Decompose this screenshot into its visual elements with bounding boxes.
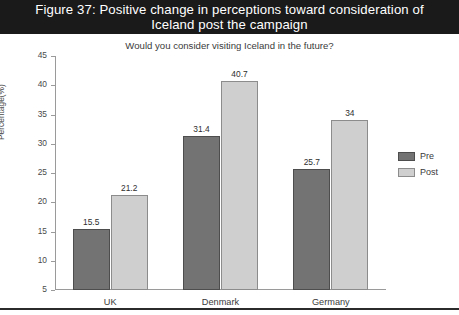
y-tick-label: 15 bbox=[38, 226, 47, 237]
footer-divider bbox=[0, 308, 459, 310]
y-axis-tick: 25 bbox=[0, 173, 55, 174]
chart-subtitle: Would you consider visiting Iceland in t… bbox=[0, 40, 459, 51]
bar-uk-pre bbox=[73, 229, 110, 290]
y-axis-tick: 45 bbox=[0, 56, 55, 57]
y-tick-label: 30 bbox=[38, 138, 47, 149]
chart-legend: PrePost bbox=[398, 148, 438, 180]
y-axis-tick: 10 bbox=[0, 261, 55, 262]
bar-germany-post bbox=[331, 120, 368, 290]
y-axis-title: Percentage(%) bbox=[0, 84, 6, 140]
y-axis-tick: 35 bbox=[0, 115, 55, 116]
x-axis-category-label: Denmark bbox=[165, 296, 275, 308]
legend-item-post[interactable]: Post bbox=[398, 164, 438, 180]
y-tick-label: 45 bbox=[38, 50, 47, 61]
legend-item-pre[interactable]: Pre bbox=[398, 148, 438, 164]
y-axis-tick: 15 bbox=[0, 232, 55, 233]
x-axis-category-label: UK bbox=[55, 296, 165, 308]
y-tick-label: 20 bbox=[38, 196, 47, 207]
legend-swatch-pre bbox=[398, 152, 415, 161]
legend-label: Post bbox=[420, 167, 438, 177]
y-tick-label: 25 bbox=[38, 167, 47, 178]
bar-denmark-pre bbox=[183, 136, 220, 290]
y-axis-tick: 30 bbox=[0, 144, 55, 145]
bar-value-label: 34 bbox=[323, 108, 376, 118]
legend-swatch-post bbox=[398, 168, 415, 177]
chart-canvas: Would you consider visiting Iceland in t… bbox=[0, 34, 459, 306]
y-tick-label: 40 bbox=[38, 79, 47, 90]
y-tick-label: 10 bbox=[38, 255, 47, 266]
y-axis-tick: 20 bbox=[0, 202, 55, 203]
bar-denmark-post bbox=[221, 81, 258, 290]
figure-header: Figure 37: Positive change in perception… bbox=[0, 0, 459, 34]
legend-label: Pre bbox=[420, 151, 434, 161]
y-axis-tick: 5 bbox=[0, 290, 55, 291]
page-title: Figure 37: Positive change in perception… bbox=[21, 2, 437, 33]
x-axis-category-label: Germany bbox=[276, 296, 386, 308]
bar-germany-pre bbox=[293, 169, 330, 290]
y-axis-tick: 40 bbox=[0, 85, 55, 86]
y-tick-label: 5 bbox=[42, 284, 47, 295]
bar-value-label: 21.2 bbox=[103, 183, 156, 193]
y-tick-mark bbox=[51, 290, 55, 291]
bar-value-label: 40.7 bbox=[213, 69, 266, 79]
y-tick-label: 35 bbox=[38, 109, 47, 120]
bar-uk-post bbox=[111, 195, 148, 290]
